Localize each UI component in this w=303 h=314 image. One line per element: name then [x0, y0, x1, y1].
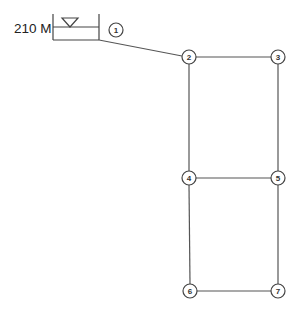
node-6-label: 6 — [188, 287, 193, 296]
node-7-label: 7 — [276, 287, 281, 296]
pipe-1-2 — [99, 40, 182, 56]
water-level-triangle-icon — [62, 18, 78, 27]
node-5: 5 — [271, 171, 285, 185]
node-5-label: 5 — [276, 174, 281, 183]
pipe-4-6 — [189, 185, 190, 284]
node-1: 1 — [109, 23, 123, 37]
node-1-label: 1 — [114, 26, 119, 35]
reservoir-tank — [53, 14, 99, 40]
node-3: 3 — [271, 50, 285, 64]
node-4: 4 — [182, 171, 196, 185]
pipes — [99, 40, 278, 291]
pipe-network-diagram: 210 M 1 2 3 4 5 6 7 — [0, 0, 303, 314]
reservoir-head-label: 210 M — [14, 21, 52, 36]
node-3-label: 3 — [276, 53, 281, 62]
node-6: 6 — [183, 284, 197, 298]
node-2-label: 2 — [187, 53, 192, 62]
node-2: 2 — [182, 50, 196, 64]
node-4-label: 4 — [187, 174, 192, 183]
node-7: 7 — [271, 284, 285, 298]
